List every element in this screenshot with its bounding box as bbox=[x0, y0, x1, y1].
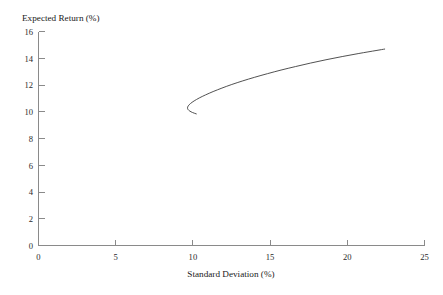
y-tick-label-14: 14 bbox=[24, 54, 33, 64]
axes bbox=[39, 32, 425, 246]
y-tick-label-8: 8 bbox=[29, 134, 33, 144]
y-axis-title: Expected Return (%) bbox=[22, 13, 100, 23]
x-tick-label-15: 15 bbox=[266, 252, 275, 262]
frontier-curve bbox=[187, 49, 384, 114]
y-axis-ticks: 0 2 4 6 8 10 12 14 16 bbox=[24, 27, 44, 251]
x-tick-label-10: 10 bbox=[189, 252, 198, 262]
y-tick-label-10: 10 bbox=[24, 107, 33, 117]
efficient-frontier-plot: Expected Return (%) 0 2 4 6 8 10 12 14 1… bbox=[0, 0, 443, 295]
y-tick-label-16: 16 bbox=[24, 27, 33, 37]
x-tick-label-20: 20 bbox=[343, 252, 352, 262]
y-tick-label-4: 4 bbox=[29, 187, 34, 197]
y-tick-label-0: 0 bbox=[29, 241, 33, 251]
y-tick-label-12: 12 bbox=[24, 80, 33, 90]
x-tick-label-0: 0 bbox=[36, 252, 40, 262]
y-tick-label-2: 2 bbox=[29, 214, 33, 224]
x-tick-label-5: 5 bbox=[114, 252, 118, 262]
x-axis-title: Standard Deviation (%) bbox=[187, 269, 274, 279]
y-tick-label-6: 6 bbox=[29, 161, 34, 171]
x-tick-label-25: 25 bbox=[420, 252, 429, 262]
chart-figure: Expected Return (%) 0 2 4 6 8 10 12 14 1… bbox=[0, 0, 443, 295]
axis-lines bbox=[39, 32, 425, 246]
x-axis-ticks: 0 5 10 15 20 25 bbox=[36, 240, 428, 263]
